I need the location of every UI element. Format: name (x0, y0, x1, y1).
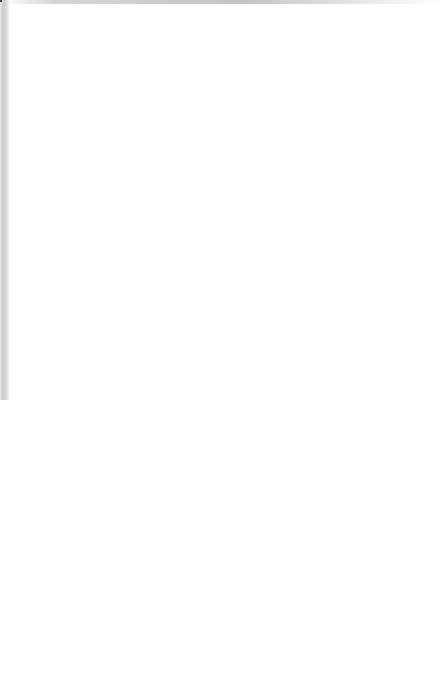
plot-area (0, 0, 2, 2)
data-curves-layer (1, 1, 301, 151)
